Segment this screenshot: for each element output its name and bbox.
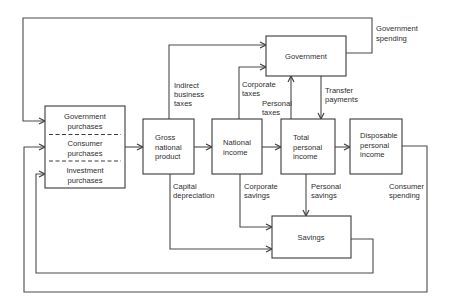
gross-national-product-box: Gross national product	[143, 119, 194, 174]
personal-savings-label: Personal savings	[311, 182, 341, 200]
svg-text:Corporate: Corporate	[244, 182, 278, 191]
total-personal-income-label-1: Total	[293, 133, 309, 142]
disposable-income-label-2: personal	[360, 141, 389, 150]
gnp-label-3: product	[155, 152, 181, 161]
svg-text:depreciation: depreciation	[173, 191, 214, 200]
government-spending-label: Government spending	[376, 24, 419, 43]
gnp-to-national-income-flow	[194, 144, 212, 150]
transfer-payments-label: Transfer payments	[325, 86, 358, 104]
svg-text:Personal: Personal	[262, 99, 292, 108]
corporate-savings-label: Corporate savings	[244, 182, 278, 200]
svg-text:Capital: Capital	[173, 182, 197, 191]
total-personal-income-label-2: personal	[293, 143, 322, 152]
svg-text:taxes: taxes	[262, 108, 280, 117]
consumer-purchases-label-2: purchases	[67, 149, 102, 158]
svg-text:Indirect: Indirect	[174, 81, 200, 90]
consumer-spending-label: Consumer spending	[389, 182, 424, 200]
total-personal-income-label-3: income	[293, 152, 317, 161]
svg-text:Consumer: Consumer	[389, 182, 424, 191]
investment-purchases-label: Investment	[66, 166, 104, 175]
gnp-label-1: Gross	[155, 133, 175, 142]
svg-text:savings: savings	[244, 191, 270, 200]
purchases-box: Government purchases Consumer purchases …	[45, 106, 125, 188]
personal-income-to-disposable-income-flow	[335, 144, 350, 150]
national-income-to-personal-income-flow	[262, 144, 281, 150]
indirect-business-taxes-label: Indirect business taxes	[174, 81, 204, 108]
national-income-label-1: National	[223, 138, 251, 147]
government-purchases-label: Government	[64, 112, 107, 121]
purchases-to-gnp-flow	[125, 144, 143, 150]
svg-text:payments: payments	[325, 95, 358, 104]
corporate-taxes-label: Corporate taxes	[242, 80, 276, 98]
svg-text:taxes: taxes	[174, 99, 192, 108]
svg-text:Government: Government	[376, 24, 419, 33]
svg-text:Corporate: Corporate	[242, 80, 276, 89]
gnp-label-2: national	[155, 143, 182, 152]
national-income-box: National income	[212, 119, 262, 174]
savings-box: Savings	[272, 216, 351, 258]
government-label: Government	[285, 52, 328, 61]
savings-label: Savings	[297, 233, 324, 242]
consumer-purchases-label: Consumer	[67, 139, 102, 148]
government-box: Government	[266, 36, 346, 76]
svg-text:Transfer: Transfer	[325, 86, 353, 95]
investment-purchases-label-2: purchases	[67, 176, 102, 185]
svg-text:Personal: Personal	[311, 182, 341, 191]
national-income-label-2: income	[223, 148, 247, 157]
svg-text:business: business	[174, 90, 204, 99]
svg-text:taxes: taxes	[242, 89, 260, 98]
svg-text:savings: savings	[311, 191, 337, 200]
personal-taxes-flow	[288, 76, 294, 119]
svg-text:spending: spending	[389, 191, 420, 200]
total-personal-income-box: Total personal income	[281, 119, 335, 174]
government-purchases-label-2: purchases	[67, 122, 102, 131]
capital-depreciation-label: Capital depreciation	[173, 182, 214, 200]
personal-taxes-label: Personal taxes	[262, 99, 292, 117]
disposable-income-label-1: Disposable	[360, 131, 398, 140]
personal-savings-flow	[303, 174, 309, 216]
disposable-personal-income-box: Disposable personal income	[350, 119, 402, 174]
disposable-income-label-3: income	[360, 150, 384, 159]
transfer-payments-flow	[318, 76, 324, 119]
svg-text:spending: spending	[376, 34, 407, 43]
national-income-flow-diagram: Government purchases Consumer purchases …	[0, 0, 450, 306]
